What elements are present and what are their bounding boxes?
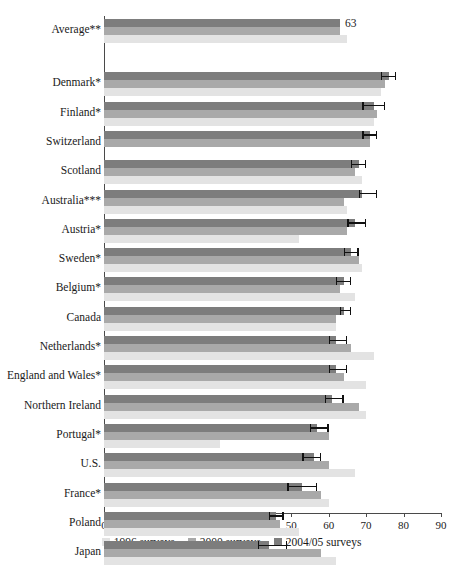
bar-1996-surveys bbox=[104, 499, 329, 507]
error-bar bbox=[325, 395, 344, 403]
bar-value-label: 63 bbox=[345, 17, 357, 29]
bar-2004-05-surveys bbox=[104, 102, 374, 110]
bar-2004-05-surveys bbox=[104, 424, 317, 432]
category-label: Poland bbox=[69, 516, 101, 528]
bar-2004-05-surveys bbox=[104, 512, 276, 520]
category-label: Australia*** bbox=[42, 194, 101, 206]
bar-1996-surveys bbox=[104, 235, 299, 243]
bar-2000-surveys bbox=[104, 80, 385, 88]
bar-2000-surveys bbox=[104, 227, 347, 235]
bar-2000-surveys bbox=[104, 27, 340, 35]
error-bar bbox=[302, 453, 321, 461]
error-bar bbox=[362, 131, 377, 139]
category-label: Belgium* bbox=[56, 281, 101, 293]
error-bar bbox=[340, 307, 351, 315]
error-bar-cap-low bbox=[329, 336, 330, 344]
error-bar bbox=[381, 72, 396, 80]
error-bar-cap-low bbox=[362, 131, 363, 139]
error-bar-cap-high bbox=[384, 102, 385, 110]
bar-group bbox=[104, 160, 441, 184]
bar-2000-surveys bbox=[104, 403, 359, 411]
x-tick-mark bbox=[366, 513, 367, 517]
error-bar-cap-high bbox=[346, 365, 347, 373]
bar-1996-surveys bbox=[104, 528, 299, 536]
bar-1996-surveys bbox=[104, 264, 362, 272]
error-bar-cap-high bbox=[365, 219, 366, 227]
bar-2000-surveys bbox=[104, 344, 351, 352]
bar-1996-surveys bbox=[104, 352, 374, 360]
bar-2000-surveys bbox=[104, 315, 336, 323]
error-bar-line bbox=[287, 486, 317, 487]
error-bar-cap-high bbox=[342, 395, 343, 403]
error-bar-cap-low bbox=[329, 365, 330, 373]
error-bar bbox=[336, 277, 351, 285]
error-bar-cap-high bbox=[376, 190, 377, 198]
error-bar-cap-low bbox=[336, 277, 337, 285]
bar-group bbox=[104, 483, 441, 507]
bar-2004-05-surveys bbox=[104, 541, 269, 549]
error-bar-cap-high bbox=[286, 541, 287, 549]
error-bar-line bbox=[347, 222, 366, 223]
x-tick-mark bbox=[404, 513, 405, 517]
category-label: Sweden* bbox=[59, 252, 101, 264]
error-bar-cap-high bbox=[282, 512, 283, 520]
error-bar bbox=[351, 160, 366, 168]
bar-group bbox=[104, 72, 441, 96]
error-bar-cap-high bbox=[350, 307, 351, 315]
error-bar bbox=[347, 219, 366, 227]
bar-2004-05-surveys bbox=[104, 483, 302, 491]
bar-group bbox=[104, 395, 441, 419]
bar-2000-surveys bbox=[104, 520, 280, 528]
error-bar-line bbox=[310, 427, 329, 428]
bar-group bbox=[104, 336, 441, 360]
error-bar bbox=[310, 424, 329, 432]
category-label: Average** bbox=[51, 23, 101, 35]
error-bar-line bbox=[325, 398, 344, 399]
bar-2000-surveys bbox=[104, 110, 377, 118]
bar-2004-05-surveys bbox=[104, 307, 344, 315]
x-tick-mark bbox=[329, 513, 330, 517]
error-bar-cap-high bbox=[395, 72, 396, 80]
bar-1996-surveys bbox=[104, 440, 220, 448]
bar-2000-surveys bbox=[104, 461, 329, 469]
bar-2004-05-surveys bbox=[104, 190, 362, 198]
bar-2004-05-surveys bbox=[104, 277, 344, 285]
bar-2000-surveys bbox=[104, 549, 321, 557]
error-bar-cap-high bbox=[357, 248, 358, 256]
legend-label: 2004/05 surveys bbox=[286, 536, 362, 548]
error-bar-cap-low bbox=[347, 219, 348, 227]
bar-group bbox=[104, 365, 441, 389]
error-bar bbox=[287, 483, 317, 491]
bar-2000-surveys bbox=[104, 285, 340, 293]
error-bar-cap-high bbox=[376, 131, 377, 139]
bar-2004-05-surveys bbox=[104, 131, 370, 139]
error-bar-line bbox=[329, 340, 348, 341]
bar-2004-05-surveys bbox=[104, 72, 389, 80]
bar-2000-surveys bbox=[104, 373, 344, 381]
bar-group bbox=[104, 190, 441, 214]
error-bar-cap-low bbox=[381, 72, 382, 80]
error-bar-line bbox=[362, 105, 384, 106]
error-bar-cap-low bbox=[287, 483, 288, 491]
category-label: France* bbox=[64, 487, 101, 499]
error-bar-cap-low bbox=[269, 512, 270, 520]
x-tick-label: 90 bbox=[426, 519, 456, 531]
chart-root: 0102030405060708090 Average**Denmark*Fin… bbox=[0, 0, 463, 566]
bar-1996-surveys bbox=[104, 469, 355, 477]
bar-1996-surveys bbox=[104, 293, 355, 301]
error-bar-line bbox=[329, 369, 348, 370]
bar-1996-surveys bbox=[104, 381, 366, 389]
bar-1996-surveys bbox=[104, 118, 374, 126]
bar-2000-surveys bbox=[104, 139, 370, 147]
error-bar-line bbox=[258, 545, 288, 546]
error-bar-cap-low bbox=[310, 424, 311, 432]
bar-2004-05-surveys bbox=[104, 395, 332, 403]
error-bar-cap-low bbox=[359, 190, 360, 198]
bar-group bbox=[104, 307, 441, 331]
error-bar bbox=[329, 336, 348, 344]
plot-area bbox=[104, 16, 441, 513]
error-bar-line bbox=[302, 457, 321, 458]
category-label: England and Wales* bbox=[7, 369, 101, 381]
bar-2004-05-surveys bbox=[104, 365, 336, 373]
error-bar-cap-high bbox=[316, 483, 317, 491]
